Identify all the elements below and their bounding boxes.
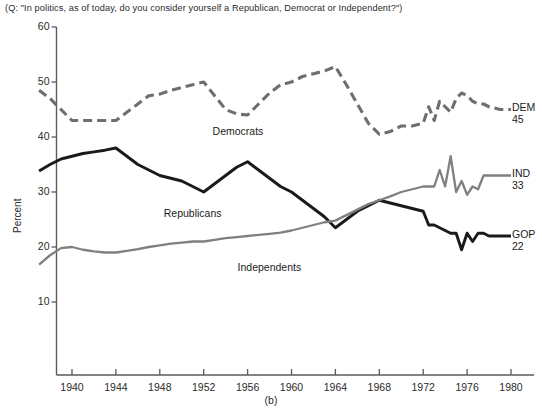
y-tick-20: 20 bbox=[24, 240, 50, 252]
y-tick-60: 60 bbox=[24, 20, 50, 32]
end-label-dem: DEM 45 bbox=[512, 101, 535, 125]
x-tick-1940: 1940 bbox=[52, 381, 92, 393]
end-label-gop: GOP 22 bbox=[512, 228, 535, 252]
x-tick-1980: 1980 bbox=[491, 381, 531, 393]
series-line-dem bbox=[39, 67, 511, 135]
x-tick-1972: 1972 bbox=[403, 381, 443, 393]
x-tick-1952: 1952 bbox=[184, 381, 224, 393]
x-tick-1944: 1944 bbox=[96, 381, 136, 393]
series-line-ind bbox=[39, 156, 511, 264]
y-tick-40: 40 bbox=[24, 130, 50, 142]
series-label-independents: Independents bbox=[238, 261, 302, 273]
x-tick-1960: 1960 bbox=[272, 381, 312, 393]
series-label-democrats: Democrats bbox=[213, 125, 264, 137]
figure-caption: (b) bbox=[0, 394, 542, 406]
y-axis-label: Percent bbox=[12, 198, 23, 232]
chart-axes bbox=[52, 27, 535, 375]
end-label-gop-name: GOP bbox=[512, 228, 535, 240]
end-label-dem-value: 45 bbox=[512, 113, 535, 125]
y-tick-30: 30 bbox=[24, 185, 50, 197]
x-tick-1964: 1964 bbox=[315, 381, 355, 393]
x-tick-1956: 1956 bbox=[228, 381, 268, 393]
y-tick-10: 10 bbox=[24, 295, 50, 307]
y-tick-50: 50 bbox=[24, 75, 50, 87]
x-tick-1968: 1968 bbox=[359, 381, 399, 393]
x-tick-1976: 1976 bbox=[447, 381, 487, 393]
end-label-ind-name: IND bbox=[512, 167, 530, 179]
series-line-gop bbox=[39, 148, 511, 250]
end-label-ind: IND 33 bbox=[512, 167, 530, 191]
end-label-ind-value: 33 bbox=[512, 179, 530, 191]
chart-series-lines bbox=[39, 67, 511, 265]
x-tick-1948: 1948 bbox=[140, 381, 180, 393]
end-label-dem-name: DEM bbox=[512, 101, 535, 113]
chart-plot-area bbox=[0, 0, 542, 413]
end-label-gop-value: 22 bbox=[512, 240, 535, 252]
figure-panel: (Q: "In politics, as of today, do you co… bbox=[0, 0, 542, 413]
series-label-republicans: Republicans bbox=[164, 207, 222, 219]
